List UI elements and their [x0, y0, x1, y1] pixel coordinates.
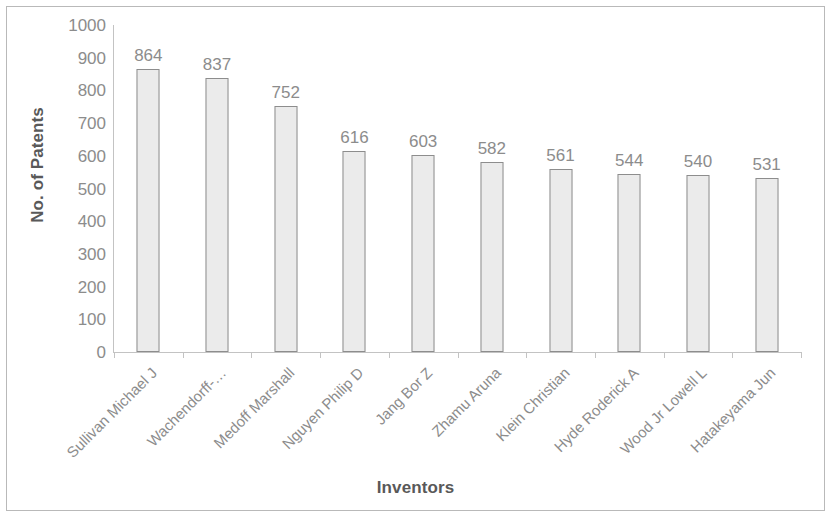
bar[interactable]	[480, 162, 503, 352]
bar-group: 603	[389, 25, 458, 352]
x-axis-tick	[183, 353, 184, 358]
y-axis-tick-label: 800	[28, 82, 106, 99]
bar[interactable]	[686, 175, 709, 352]
bar-value-label: 837	[203, 56, 231, 73]
x-axis-tick	[801, 353, 802, 358]
y-axis-tick-label: 300	[28, 246, 106, 263]
x-axis-tick	[526, 353, 527, 358]
y-axis-tick-label: 0	[28, 344, 106, 361]
bar-value-label: 752	[272, 84, 300, 101]
y-axis-tick-label: 100	[28, 311, 106, 328]
bar-value-label: 582	[478, 140, 506, 157]
x-axis-tick	[458, 353, 459, 358]
bar-chart: No. of Patents 1000900800700600500400300…	[0, 0, 831, 519]
x-axis-tick	[732, 353, 733, 358]
y-axis-tick-labels: 10009008007006005004003002001000	[28, 17, 106, 361]
x-axis-tick	[114, 353, 115, 358]
bar-value-label: 561	[546, 147, 574, 164]
bar-value-label: 540	[684, 153, 712, 170]
x-axis-tick	[320, 353, 321, 358]
bar-group: 837	[183, 25, 252, 352]
x-axis-title: Inventors	[0, 478, 831, 498]
bar-group: 864	[114, 25, 183, 352]
bar-group: 531	[732, 25, 801, 352]
x-axis-tick	[664, 353, 665, 358]
bar-value-label: 531	[752, 156, 780, 173]
y-axis-tick-label: 400	[28, 213, 106, 230]
bar[interactable]	[343, 151, 366, 352]
plot-area: 864837752616603582561544540531	[114, 25, 801, 352]
bar[interactable]	[274, 106, 297, 352]
bar-group: 616	[320, 25, 389, 352]
bar[interactable]	[549, 169, 572, 352]
bar-group: 582	[458, 25, 527, 352]
x-axis-label-slot: Hatakeyama Jun	[732, 358, 801, 478]
bar-group: 544	[595, 25, 664, 352]
bar-group: 752	[251, 25, 320, 352]
bar[interactable]	[206, 78, 229, 352]
bar[interactable]	[755, 178, 778, 352]
x-axis-tick	[389, 353, 390, 358]
y-axis-tick-label: 200	[28, 279, 106, 296]
y-axis-tick-label: 700	[28, 115, 106, 132]
bar[interactable]	[618, 174, 641, 352]
y-axis-tick-label: 900	[28, 50, 106, 67]
bar-group: 540	[664, 25, 733, 352]
y-axis-tick-label: 500	[28, 181, 106, 198]
bar-value-label: 864	[134, 47, 162, 64]
bar[interactable]	[137, 69, 160, 352]
x-axis-tick	[251, 353, 252, 358]
x-axis-tick	[595, 353, 596, 358]
bar-value-label: 616	[340, 129, 368, 146]
bar-value-label: 603	[409, 133, 437, 150]
y-axis-tick-label: 1000	[28, 17, 106, 34]
y-axis-tick-label: 600	[28, 148, 106, 165]
x-axis-category-labels: Sullivan Michael JWachendorff-…Medoff Ma…	[114, 358, 801, 478]
x-axis-category-label: Sullivan Michael J	[63, 364, 160, 461]
bar-group: 561	[526, 25, 595, 352]
bar-value-label: 544	[615, 152, 643, 169]
bar[interactable]	[412, 155, 435, 352]
